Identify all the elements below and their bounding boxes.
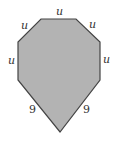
label-right: u [103,53,110,66]
label-bottom-right: 9 [83,103,90,116]
label-left: u [8,54,15,67]
label-top: u [56,5,63,18]
polygon-diagram: u u u 9 9 u u [0,0,115,145]
label-top-right: u [89,18,96,31]
label-bottom-left: 9 [29,103,36,116]
label-top-left: u [21,19,28,32]
